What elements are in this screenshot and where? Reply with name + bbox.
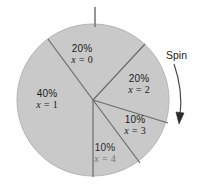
spin-caption: Spin <box>166 49 187 61</box>
sector-value-x4: x = 4 <box>82 153 128 164</box>
sector-percent-x4: 10% <box>82 142 128 153</box>
sector-label-x0: 20% x = 0 <box>59 43 105 65</box>
spinner-figure: 20% x = 0 20% x = 2 40% x = 1 10% x = 3 … <box>0 0 208 191</box>
spin-arrow-icon <box>174 64 181 116</box>
sector-percent-x1: 40% <box>24 88 70 99</box>
sector-label-x4: 10% x = 4 <box>82 142 128 164</box>
sector-value-x2: x = 2 <box>116 84 162 95</box>
sector-label-x2: 20% x = 2 <box>116 73 162 95</box>
sector-percent-x3: 10% <box>112 114 158 125</box>
sector-percent-x2: 20% <box>116 73 162 84</box>
spin-arrow-head-icon <box>176 112 184 124</box>
sector-percent-x0: 20% <box>59 43 105 54</box>
sector-value-x1: x = 1 <box>24 99 70 110</box>
sector-label-x3: 10% x = 3 <box>112 114 158 136</box>
sector-value-x3: x = 3 <box>112 125 158 136</box>
sector-label-x1: 40% x = 1 <box>24 88 70 110</box>
sector-value-x0: x = 0 <box>59 54 105 65</box>
